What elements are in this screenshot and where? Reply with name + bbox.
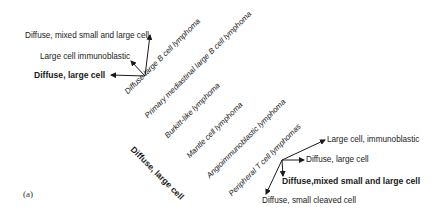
left-label-diffuse-large: Diffuse, large cell bbox=[34, 71, 105, 80]
right-label-mixed: Diffuse,mixed small and large cell bbox=[282, 177, 420, 186]
panel-label: (a) bbox=[23, 190, 33, 199]
right-label-diffuse-large: Diffuse, large cell bbox=[306, 156, 369, 164]
left-label-immunoblastic: Large cell immunoblastic bbox=[40, 53, 130, 61]
right-label-immunoblastic: Large cell, immunoblastic bbox=[327, 136, 419, 144]
figure-diagram: Diffuse, mixed small and large cell Larg… bbox=[0, 0, 445, 221]
right-label-small-cleaved: Diffuse, small cleaved cell bbox=[262, 197, 356, 205]
left-label-mixed: Diffuse, mixed small and large cell bbox=[25, 32, 149, 40]
